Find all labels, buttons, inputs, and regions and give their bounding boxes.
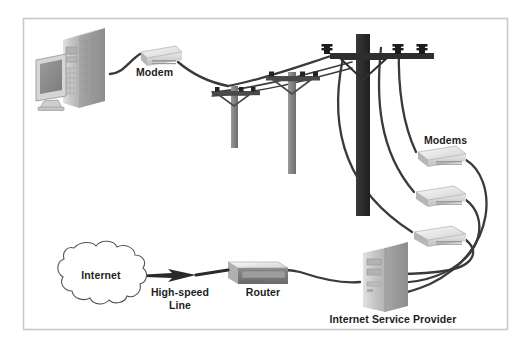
network-diagram: Modem Modems Internet High-speed Line Ro… (0, 0, 528, 354)
insulator (215, 87, 220, 92)
label-high-speed-line-2: Line (169, 299, 191, 311)
insulator (251, 87, 256, 92)
diagram-canvas: Modem Modems Internet High-speed Line Ro… (0, 0, 528, 354)
insulator (313, 72, 318, 77)
label-isp: Internet Service Provider (330, 313, 457, 325)
insulator (300, 72, 305, 77)
label-modem: Modem (136, 66, 173, 78)
insulator (269, 72, 274, 77)
label-modems: Modems (424, 134, 467, 146)
label-router: Router (246, 286, 280, 298)
label-high-speed-line-1: High-speed (151, 286, 209, 298)
insulator (239, 87, 244, 92)
isp-server-tower (363, 242, 408, 312)
label-internet: Internet (81, 269, 121, 281)
router-device (228, 262, 288, 284)
